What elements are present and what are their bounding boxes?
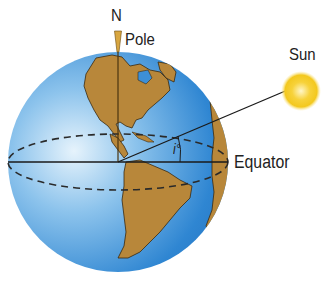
- pole-label: Pole: [125, 31, 155, 48]
- pole-marker-icon: [115, 31, 122, 52]
- angle-label: i°: [173, 142, 181, 156]
- equator-label: Equator: [234, 153, 289, 171]
- sun-label: Sun: [289, 46, 316, 63]
- sun-icon: [281, 71, 321, 111]
- globe-diagram: [0, 0, 332, 285]
- north-label: N: [111, 7, 122, 24]
